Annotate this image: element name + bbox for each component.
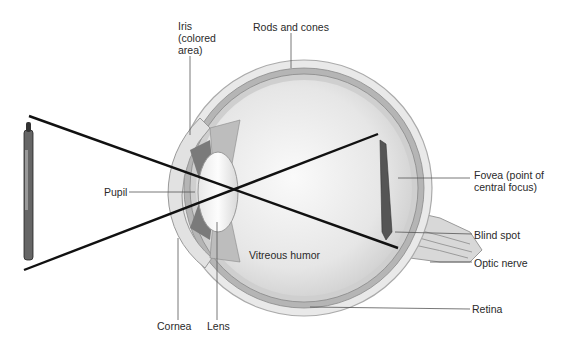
label-optic-nerve: Optic nerve <box>474 257 528 269</box>
label-lens: Lens <box>207 320 230 332</box>
label-pupil: Pupil <box>104 186 127 198</box>
label-blind-spot: Blind spot <box>474 229 520 241</box>
label-cornea: Cornea <box>157 320 191 332</box>
lens <box>198 152 238 232</box>
label-retina: Retina <box>472 303 502 315</box>
label-vitreous-humor: Vitreous humor <box>249 249 320 261</box>
label-rods-and-cones: Rods and cones <box>253 21 329 33</box>
label-iris: Iris (colored area) <box>178 20 216 56</box>
label-fovea: Fovea (point of central focus) <box>474 169 544 193</box>
pen-object <box>24 122 33 260</box>
